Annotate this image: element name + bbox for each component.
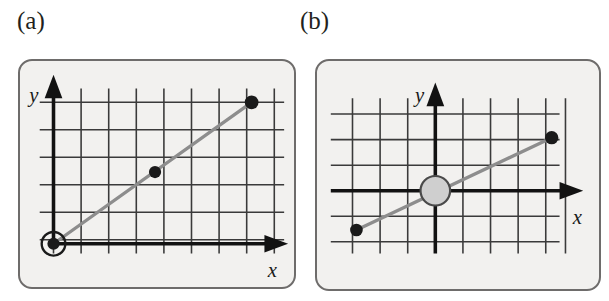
panel-b-origin-highlight-disc: [421, 176, 451, 205]
panel-a-x-axis: [54, 235, 289, 253]
panel-a-chart: y x: [18, 59, 296, 289]
panel-b-y-axis-label: y: [413, 84, 425, 107]
panel-b-x-axis-label: x: [572, 206, 583, 228]
panel-b-chart: y x: [315, 59, 601, 291]
panel-a-point-upper: [245, 95, 259, 109]
figure-root: (a): [0, 0, 609, 301]
panel-a-point-middle: [149, 166, 161, 178]
panel-a-vertical-gridlines: [54, 89, 275, 254]
panel-b-point-upper-right: [545, 131, 558, 144]
panel-b-vertical-gridlines: [352, 98, 565, 253]
panel-a-y-axis: [45, 75, 63, 244]
panel-a-x-axis-label: x: [267, 259, 278, 281]
panel-b-y-axis: [426, 83, 444, 254]
panel-a-label: (a): [17, 8, 45, 33]
panel-a-y-axis-label: y: [27, 84, 39, 107]
panel-b-svg: y x: [317, 61, 599, 289]
panel-b-horizontal-gridlines: [331, 114, 560, 242]
panel-b-label: (b): [300, 8, 329, 33]
panel-b-point-lower-left: [350, 224, 363, 237]
panel-a-point-origin: [47, 238, 59, 250]
panel-a-svg: y x: [20, 61, 294, 287]
